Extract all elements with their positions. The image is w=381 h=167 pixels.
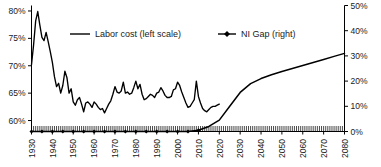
dual-axis-line-chart: 60%65%70%75%80%0%10%20%30%40%50%19301940… <box>0 0 381 167</box>
x-axis-tick-label: 2070 <box>319 139 329 158</box>
x-axis-tick-label: 1980 <box>131 139 141 158</box>
left-axis-tick-label: 80% <box>8 6 25 16</box>
left-axis-tick-label: 65% <box>8 88 25 98</box>
legend-marker-ni-gap <box>224 31 230 37</box>
x-axis-tick-label: 1940 <box>48 139 58 158</box>
legend-item-ni-gap[interactable]: NI Gap (right) <box>218 29 296 39</box>
x-axis-tick-label: 2030 <box>235 139 245 158</box>
chart-container: 60%65%70%75%80%0%10%20%30%40%50%19301940… <box>0 0 381 167</box>
right-axis-tick-label: 0% <box>351 127 364 137</box>
x-axis-tick-label: 1970 <box>110 139 120 158</box>
right-axis-tick-label: 40% <box>351 26 368 36</box>
left-axis-tick-label: 70% <box>8 61 25 71</box>
x-axis-tick-label: 2060 <box>298 139 308 158</box>
legend-item-labor-cost[interactable]: Labor cost (left scale) <box>70 29 181 39</box>
right-axis-tick-label: 20% <box>351 76 368 86</box>
series-line-ni-gap <box>32 53 345 131</box>
x-axis-tick-label: 2040 <box>256 139 266 158</box>
x-axis-tick-label: 2050 <box>277 139 287 158</box>
right-axis-tick-label: 30% <box>351 51 368 61</box>
legend-label-labor-cost: Labor cost (left scale) <box>95 29 181 39</box>
right-axis-tick-label: 10% <box>351 101 368 111</box>
x-axis-tick-label: 1960 <box>89 139 99 158</box>
series-line-labor-cost <box>32 12 220 113</box>
right-axis-tick-label: 50% <box>351 1 368 11</box>
left-axis-tick-label: 75% <box>8 33 25 43</box>
left-axis-tick-label: 60% <box>8 116 25 126</box>
x-axis-tick-label: 2080 <box>340 139 350 158</box>
legend-label-ni-gap: NI Gap (right) <box>241 29 296 39</box>
x-axis-tick-label: 2010 <box>194 139 204 158</box>
chart-legend: Labor cost (left scale)NI Gap (right) <box>70 29 296 39</box>
x-axis-tick-label: 1930 <box>27 139 37 158</box>
x-axis-tick-label: 1950 <box>68 139 78 158</box>
x-axis-tick-label: 2020 <box>215 139 225 158</box>
x-axis-tick-label: 1990 <box>152 139 162 158</box>
x-axis-tick-label: 2000 <box>173 139 183 158</box>
